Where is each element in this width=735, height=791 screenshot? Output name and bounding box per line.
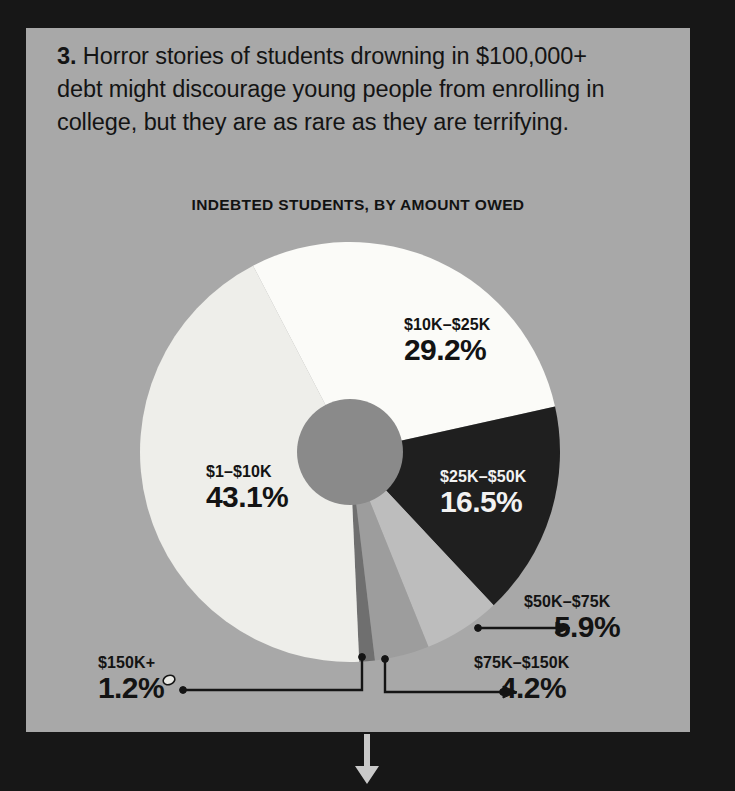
slice-category-75k-150k: $75K–$150K <box>474 654 569 671</box>
slice-category-150k-plus: $150K+ <box>98 654 164 671</box>
slice-label-50k-75k: $50K–$75K 5.9% <box>524 593 620 643</box>
slice-label-75k-150k: $75K–$150K 4.2% <box>474 654 569 704</box>
slice-label-1-10k: $1–$10K 43.1% <box>206 463 288 513</box>
slice-label-10k-25k: $10K–$25K 29.2% <box>404 316 490 366</box>
slice-value-25k-50k: 16.5% <box>440 486 526 518</box>
slice-value-50k-75k: 5.9% <box>554 611 620 643</box>
slice-category-1-10k: $1–$10K <box>206 463 288 480</box>
slice-category-25k-50k: $25K–$50K <box>440 468 526 485</box>
intro-paragraph: 3. Horror stories of students drowning i… <box>57 40 632 139</box>
chart-title: INDEBTED STUDENTS, BY AMOUNT OWED <box>26 196 690 214</box>
item-number: 3. <box>57 43 76 69</box>
slice-value-150k-plus: 1.2% <box>98 672 164 704</box>
slice-value-75k-150k: 4.2% <box>500 672 569 704</box>
slice-category-50k-75k: $50K–$75K <box>524 593 620 610</box>
slice-value-1-10k: 43.1% <box>206 481 288 513</box>
down-arrow-icon <box>352 734 382 786</box>
slice-category-10k-25k: $10K–$25K <box>404 316 490 333</box>
slice-label-150k-plus: $150K+ 1.2% <box>98 654 164 704</box>
slice-value-10k-25k: 29.2% <box>404 334 490 366</box>
slice-label-25k-50k: $25K–$50K 16.5% <box>440 468 526 518</box>
intro-body-text: Horror stories of students drowning in $… <box>57 43 604 135</box>
